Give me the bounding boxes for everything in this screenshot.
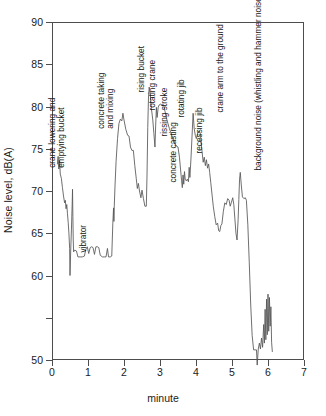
annotation-recessing-jib: recessing jib <box>195 107 205 153</box>
annotation-rotating-jib: rotating jib <box>178 80 188 118</box>
annotation-vibrator: vibrator <box>79 225 89 253</box>
x-axis-label: minute <box>0 392 326 404</box>
x-tick-label: 3 <box>157 366 163 378</box>
y-tick-label: 50 <box>31 354 43 366</box>
y-tick-label: 75 <box>31 143 43 155</box>
y-tick-label: 90 <box>31 16 43 28</box>
annotation-line-1: background noise (whistling and hammer n… <box>254 0 264 171</box>
annotation-rising-bucket: rising bucket <box>137 46 147 93</box>
annotation-line-2: emptying bucket <box>58 98 67 168</box>
x-tick-label: 0 <box>49 366 55 378</box>
x-tick-label: 4 <box>193 366 199 378</box>
annotation-line-1: rotating jib <box>177 80 187 118</box>
annotation-concrete-casting: concrete casting <box>170 122 180 182</box>
annotation-line-2: and mixing <box>106 72 115 128</box>
y-tick-label: 60 <box>31 270 43 282</box>
annotation-crane-lowering: crane lowering andemptying bucket <box>48 98 67 168</box>
x-tick-label: 6 <box>265 366 271 378</box>
annotation-line-1: vibrator <box>78 225 88 253</box>
annotation-line-1: crane arm to the ground <box>215 24 225 113</box>
annotation-line-1: recessing jib <box>194 107 204 153</box>
y-axis-label: Noise level, dB(A) <box>2 0 14 120</box>
annotation-concrete-taking: concrete takingand mixing <box>97 72 116 128</box>
y-tick-label: 85 <box>31 58 43 70</box>
y-tick-label: 65 <box>31 227 43 239</box>
y-tick-label: 70 <box>31 185 43 197</box>
x-tick-label: 7 <box>301 366 307 378</box>
annotation-rotating-crane: rotating crane <box>148 60 158 111</box>
x-tick-label: 1 <box>85 366 91 378</box>
x-tick-label: 2 <box>121 366 127 378</box>
plot-area: 5060657075808590 01234567 crane lowering… <box>52 22 304 360</box>
annotation-line-1: rotating crane <box>147 60 157 111</box>
annotation-background-noise: background noise (whistling and hammer n… <box>255 0 265 171</box>
annotation-crane-arm: crane arm to the ground <box>216 24 226 113</box>
annotation-line-1: concrete taking <box>96 72 106 128</box>
x-tick-label: 5 <box>229 366 235 378</box>
noise-level-series <box>52 22 304 360</box>
noise-level-chart: Noise level, dB(A) 5060657075808590 0123… <box>0 0 326 416</box>
annotation-line-1: concrete casting <box>169 122 179 182</box>
annotation-line-1: rising bucket <box>136 46 146 93</box>
y-tick-label: 80 <box>31 101 43 113</box>
